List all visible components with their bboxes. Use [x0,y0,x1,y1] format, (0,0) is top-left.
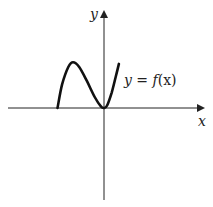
chart: y x y = f(x) [0,0,213,207]
curve-label: y = f(x) [123,72,177,88]
curve-label-eq: = [132,72,153,88]
x-axis-label: x [198,113,206,129]
curve-f-of-x [58,62,119,108]
y-axis-label: y [89,6,99,22]
curve-label-arg: (x) [158,72,177,88]
